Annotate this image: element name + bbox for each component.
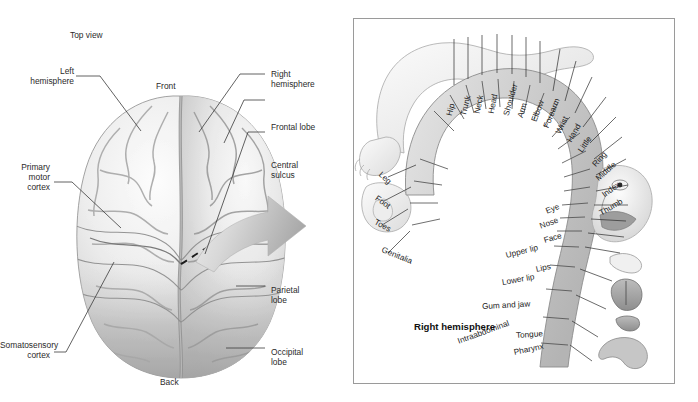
stomach-icon [599,338,648,369]
label-parietal-lobe: Parietal lobe [271,285,299,305]
label-frontal-lobe: Frontal lobe [271,122,315,132]
label-right-hemisphere: Right hemisphere [271,69,315,89]
jaw-icon [610,254,642,273]
label-back: Back [160,377,179,387]
label-left-hemisphere: Left hemisphere [0,66,74,86]
homunculus-illustration [354,19,674,383]
top-view-label: Top view [70,30,103,40]
label-occipital-lobe: Occipital lobe [271,347,303,367]
oral-organ-illustrations [599,254,648,369]
label-central-sulcus: Central sulcus [271,160,298,180]
tongue-icon [611,279,642,310]
homunculus-label-tongue: Tongue [516,329,543,340]
pharynx-icon [616,316,640,331]
homunculus-panel: Hip Trunk Neck Head Shoulder Arm Elbow F… [353,18,675,384]
label-primary-motor-cortex: Primary motor cortex [0,162,50,193]
label-somatosensory-cortex: Somatosensory cortex [0,340,50,360]
right-hemisphere-caption: Right hemisphere [414,321,495,332]
label-front: Front [156,81,176,91]
figure-root: Left hemisphere Top view Left hemisphere… [0,0,698,402]
